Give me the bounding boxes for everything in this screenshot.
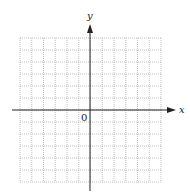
x-axis-arrow-icon: [167, 107, 176, 113]
coordinate-plane: x y 0: [0, 0, 190, 194]
y-axis-label: y: [86, 10, 93, 21]
y-axis-arrow-icon: [87, 24, 93, 33]
origin-label: 0: [81, 112, 87, 123]
x-axis-label: x: [179, 104, 185, 115]
axes: [12, 24, 176, 191]
